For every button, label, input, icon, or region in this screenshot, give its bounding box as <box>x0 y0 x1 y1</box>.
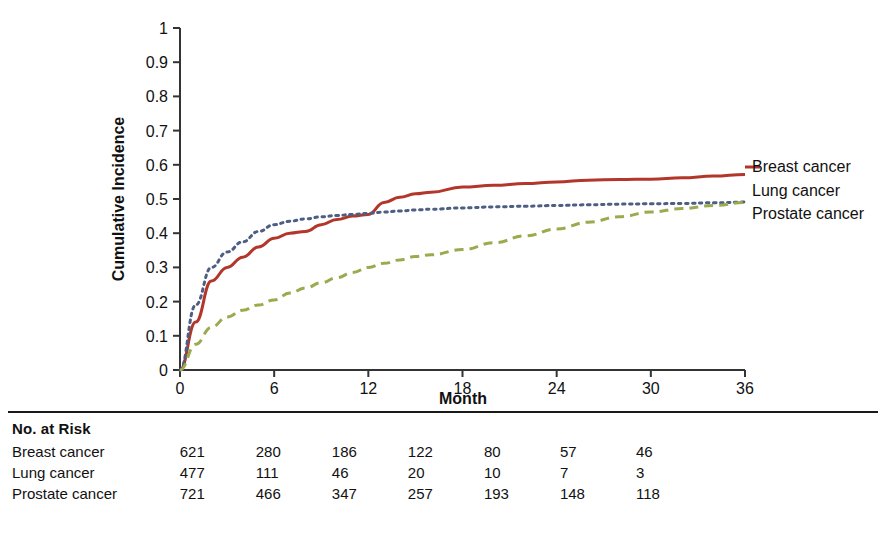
y-tick-label: 0.6 <box>146 157 168 174</box>
y-tick-label: 0.3 <box>146 259 168 276</box>
y-tick-label: 0.7 <box>146 123 168 140</box>
risk-cell: 466 <box>256 483 332 504</box>
risk-cell: 148 <box>560 483 636 504</box>
risk-row-label: Prostate cancer <box>12 483 180 504</box>
risk-cell: 122 <box>408 441 484 462</box>
risk-table-section: No. at Risk Breast cancer621280186122805… <box>0 411 895 504</box>
chart-plot-area: 00.10.20.30.40.50.60.70.80.91 0612182430… <box>0 0 895 410</box>
legend-label-1: Lung cancer <box>752 182 841 199</box>
y-tick-label: 0.5 <box>146 191 168 208</box>
cumulative-incidence-chart: 00.10.20.30.40.50.60.70.80.91 0612182430… <box>0 0 895 410</box>
x-tick-label: 6 <box>270 380 279 397</box>
y-axis-ticks: 00.10.20.30.40.50.60.70.80.91 <box>146 20 180 379</box>
x-tick-label: 36 <box>736 380 754 397</box>
data-series-group <box>180 174 745 370</box>
risk-cell: 10 <box>484 462 560 483</box>
risk-cell: 186 <box>332 441 408 462</box>
risk-row-label: Lung cancer <box>12 462 180 483</box>
x-tick-label: 12 <box>359 380 377 397</box>
risk-cell: 193 <box>484 483 560 504</box>
table-row: Prostate cancer721466347257193148118 <box>12 483 712 504</box>
x-tick-label: 0 <box>176 380 185 397</box>
series-line-lung-cancer <box>180 202 745 370</box>
figure-root: 00.10.20.30.40.50.60.70.80.91 0612182430… <box>0 0 895 544</box>
risk-cell: 46 <box>332 462 408 483</box>
risk-cell: 477 <box>180 462 256 483</box>
y-tick-label: 0.2 <box>146 294 168 311</box>
y-tick-label: 0.9 <box>146 54 168 71</box>
risk-cell: 621 <box>180 441 256 462</box>
risk-cell: 20 <box>408 462 484 483</box>
y-tick-label: 0.1 <box>146 328 168 345</box>
risk-cell: 3 <box>636 462 712 483</box>
y-tick-label: 1 <box>159 20 168 37</box>
x-axis-title: Month <box>439 390 487 407</box>
chart-legend: Breast cancerLung cancerProstate cancer <box>745 158 865 222</box>
legend-label-2: Prostate cancer <box>752 205 865 222</box>
risk-row-label: Breast cancer <box>12 441 180 462</box>
y-axis-title: Cumulative Incidence <box>110 117 127 282</box>
y-tick-label: 0 <box>159 362 168 379</box>
table-row: Lung cancer47711146201073 <box>12 462 712 483</box>
y-tick-label: 0.8 <box>146 88 168 105</box>
table-row: Breast cancer621280186122805746 <box>12 441 712 462</box>
numbers-at-risk-table: Breast cancer621280186122805746Lung canc… <box>12 441 712 504</box>
risk-cell: 280 <box>256 441 332 462</box>
risk-cell: 57 <box>560 441 636 462</box>
risk-cell: 46 <box>636 441 712 462</box>
risk-cell: 80 <box>484 441 560 462</box>
risk-cell: 347 <box>332 483 408 504</box>
table-top-rule <box>8 411 878 413</box>
risk-cell: 7 <box>560 462 636 483</box>
risk-table-title: No. at Risk <box>12 420 895 437</box>
risk-cell: 118 <box>636 483 712 504</box>
y-tick-label: 0.4 <box>146 225 168 242</box>
x-tick-label: 30 <box>642 380 660 397</box>
x-tick-label: 24 <box>548 380 566 397</box>
series-line-prostate-cancer <box>180 202 745 370</box>
risk-cell: 721 <box>180 483 256 504</box>
risk-cell: 257 <box>408 483 484 504</box>
legend-label-0: Breast cancer <box>752 158 851 175</box>
risk-cell: 111 <box>256 462 332 483</box>
